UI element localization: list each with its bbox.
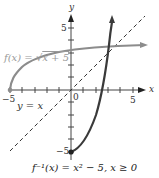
tick-y-5: 5 bbox=[61, 24, 67, 33]
f-endpoint bbox=[8, 88, 13, 93]
tick-y-neg5: −5 bbox=[56, 147, 69, 156]
tick-x-5: 5 bbox=[130, 96, 136, 105]
finv-label: f⁻¹(x) = x² − 5, x ≥ 0 bbox=[32, 163, 137, 173]
tick-x-neg5: −5 bbox=[2, 95, 15, 104]
y-axis-label: y bbox=[69, 3, 74, 12]
identity-line bbox=[10, 16, 145, 151]
x-axis-label: x bbox=[149, 85, 154, 94]
finv-curve bbox=[71, 22, 112, 152]
finv-arrow bbox=[109, 15, 115, 23]
f-arrow bbox=[140, 42, 148, 48]
y-axis bbox=[68, 14, 74, 160]
tick-origin: 0 bbox=[73, 93, 79, 102]
graph-canvas bbox=[0, 0, 159, 178]
identity-label: y = x bbox=[17, 101, 43, 111]
f-label: f(x) = √x + 5 bbox=[4, 53, 69, 63]
